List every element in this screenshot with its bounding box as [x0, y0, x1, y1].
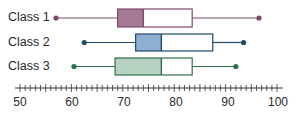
- class-1-box-lower: [118, 9, 144, 27]
- box-plot: [0, 0, 295, 121]
- x-tick-label-100: 100: [268, 95, 288, 109]
- class-1-box-upper: [143, 9, 192, 27]
- class-3-min-dot: [71, 64, 76, 69]
- x-tick-label-70: 70: [117, 95, 130, 109]
- class-2-max-dot: [241, 40, 246, 45]
- class-3-box-upper: [161, 58, 192, 75]
- class-1-min-dot: [53, 15, 58, 20]
- x-tick-label-90: 90: [221, 95, 234, 109]
- x-tick-label-50: 50: [13, 95, 26, 109]
- class-2-box-upper: [161, 34, 212, 51]
- class-3-box-lower: [115, 58, 161, 75]
- x-tick-label-80: 80: [169, 95, 182, 109]
- class-2-box-lower: [136, 34, 162, 51]
- class-3-max-dot: [233, 64, 238, 69]
- class-2-min-dot: [82, 40, 87, 45]
- class-1-max-dot: [256, 15, 261, 20]
- x-tick-label-60: 60: [65, 95, 78, 109]
